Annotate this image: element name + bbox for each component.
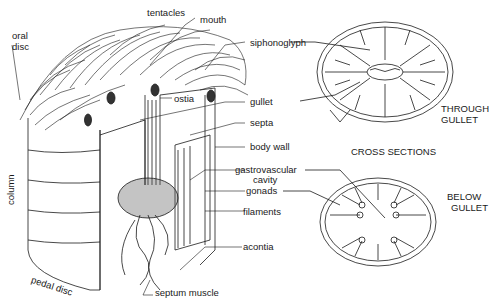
ostium xyxy=(207,90,215,102)
label-gastrovascular-2: cavity xyxy=(253,175,277,185)
gonad-mass xyxy=(118,178,178,218)
label-septa: septa xyxy=(250,118,273,128)
tentacle-crown xyxy=(20,25,248,130)
label-column: column xyxy=(6,174,16,205)
label-tentacles: tentacles xyxy=(147,8,185,18)
cross-section-below-gullet xyxy=(283,170,436,266)
column-outline xyxy=(28,118,100,290)
label-gullet: gullet xyxy=(250,97,273,107)
ostium xyxy=(85,114,92,126)
label-filaments: filaments xyxy=(243,207,281,217)
label-ostia: ostia xyxy=(174,94,194,104)
label-siphonoglyph: siphonoglyph xyxy=(250,38,306,48)
caption-below-gullet-1: BELOW xyxy=(447,192,481,203)
label-acontia: acontia xyxy=(243,242,274,252)
caption-below-gullet-2: GULLET xyxy=(451,203,488,214)
label-oral-disc-2: disc xyxy=(12,42,29,52)
cross-section-through-gullet xyxy=(290,22,453,122)
label-septum-muscle: septum muscle xyxy=(155,288,219,298)
ostium xyxy=(107,92,115,104)
label-body-wall: body wall xyxy=(250,142,290,152)
caption-through-gullet-1: THROUGH xyxy=(441,104,489,115)
ostium xyxy=(151,84,159,96)
caption-cross-sections: CROSS SECTIONS xyxy=(351,147,436,158)
label-mouth: mouth xyxy=(200,15,226,25)
caption-through-gullet-2: GULLET xyxy=(441,115,478,126)
label-gonads: gonads xyxy=(246,186,277,196)
label-oral-disc-1: oral xyxy=(12,31,28,41)
